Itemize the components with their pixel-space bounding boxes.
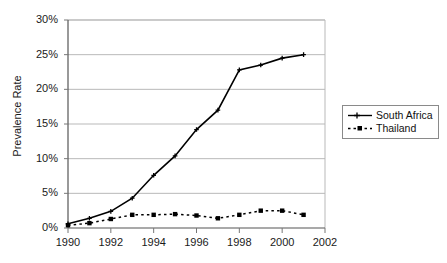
- x-axis-tick-label: 1998: [219, 236, 259, 248]
- legend-item-thailand: Thailand: [347, 122, 433, 135]
- legend-label-thailand: Thailand: [376, 122, 416, 135]
- x-axis-tick-label: 1996: [177, 236, 217, 248]
- legend-label-south-africa: South Africa: [376, 109, 433, 122]
- legend-key-south-africa: [347, 110, 373, 121]
- legend-item-south-africa: South Africa: [347, 109, 433, 122]
- x-axis-tick-label: 2000: [262, 236, 302, 248]
- x-axis-tick-label: 1994: [134, 236, 174, 248]
- legend-key-thailand: [347, 123, 373, 134]
- chart-legend: South Africa Thailand: [342, 105, 439, 139]
- x-axis-tick-label: 1992: [91, 236, 131, 248]
- x-axis-tick-label: 2002: [305, 236, 345, 248]
- x-axis-tick-label: 1990: [48, 236, 88, 248]
- prevalence-rate-line-chart: Prevalence Rate 0%5%10%15%20%25%30% 1990…: [0, 0, 447, 263]
